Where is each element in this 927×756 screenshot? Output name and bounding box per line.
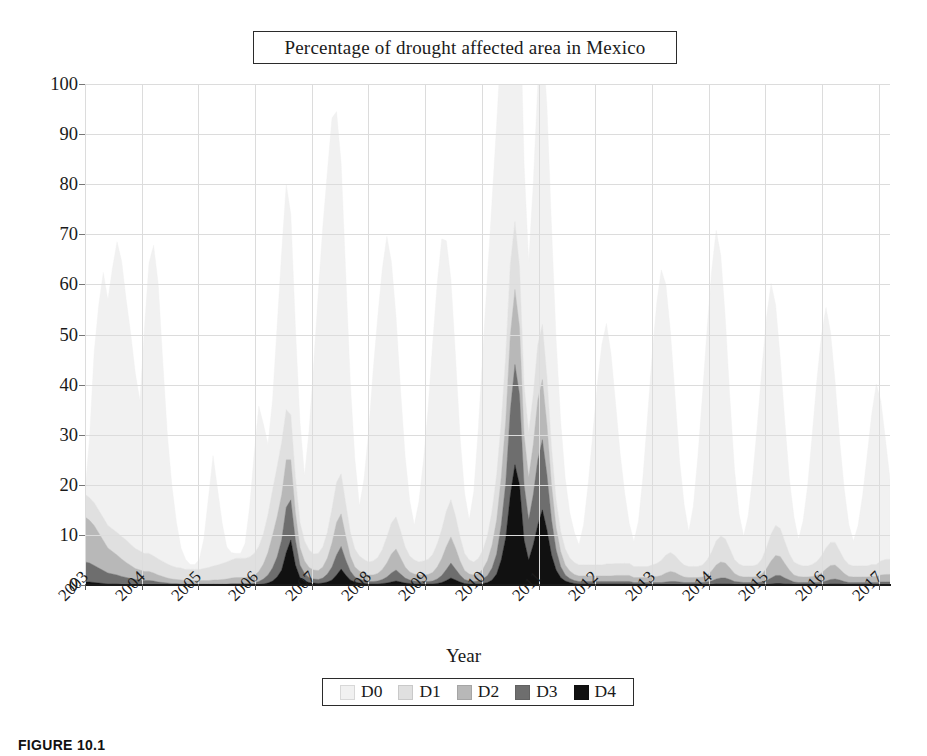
plot-area [85,84,890,585]
gridline-vertical [312,84,313,585]
y-axis-tick-label: 10 [32,526,78,545]
y-axis-tick-mark [79,84,85,85]
y-axis-tick-labels: 0102030405060708090100 [24,84,78,585]
legend-swatch-icon [398,685,413,700]
y-axis-tick-mark [79,485,85,486]
gridline-vertical [765,84,766,585]
gridline-vertical [482,84,483,585]
gridline-vertical [822,84,823,585]
gridline-vertical [368,84,369,585]
x-axis-title: Year [0,645,927,667]
gridline-horizontal [85,284,890,285]
y-axis-tick-label: 80 [32,175,78,194]
y-axis-tick-mark [79,435,85,436]
gridline-horizontal [85,485,890,486]
legend-item-d2[interactable]: D2 [449,683,507,701]
legend-item-d4[interactable]: D4 [566,683,624,701]
legend-swatch-icon [515,685,530,700]
y-axis-tick-label: 100 [32,75,78,94]
y-axis-tick-mark [79,535,85,536]
area-series-d0 [85,84,890,569]
gridline-vertical [425,84,426,585]
y-axis-tick-mark [79,234,85,235]
y-axis-tick-label: 60 [32,275,78,294]
legend-swatch-icon [340,685,355,700]
y-axis-tick-mark [79,284,85,285]
legend-swatch-icon [457,685,472,700]
gridline-horizontal [85,335,890,336]
y-axis-tick-label: 90 [32,125,78,144]
legend-item-d1[interactable]: D1 [390,683,448,701]
gridline-vertical [595,84,596,585]
legend-swatch-icon [574,685,589,700]
y-axis-tick-mark [79,335,85,336]
gridline-horizontal [85,84,890,85]
y-axis-tick-label: 20 [32,476,78,495]
gridline-horizontal [85,535,890,536]
y-axis-tick-label: 30 [32,426,78,445]
legend-label: D1 [419,683,440,701]
gridline-vertical [709,84,710,585]
chart-title: Percentage of drought affected area in M… [253,31,677,64]
gridline-vertical [539,84,540,585]
legend-item-d0[interactable]: D0 [332,683,390,701]
gridline-vertical [879,84,880,585]
y-axis-tick-mark [79,385,85,386]
gridline-vertical [198,84,199,585]
y-axis-tick-label: 70 [32,225,78,244]
y-axis-tick-label: 40 [32,376,78,395]
legend-label: D2 [478,683,499,701]
gridline-vertical [85,84,86,585]
gridline-horizontal [85,134,890,135]
legend-label: D4 [595,683,616,701]
y-axis-tick-label: 50 [32,326,78,345]
gridline-vertical [652,84,653,585]
gridline-horizontal [85,385,890,386]
gridline-vertical [255,84,256,585]
y-axis-tick-mark [79,184,85,185]
y-axis-tick-mark [79,134,85,135]
gridline-horizontal [85,184,890,185]
y-axis-tick-mark [79,585,85,586]
legend-label: D3 [536,683,557,701]
figure-caption: FIGURE 10.1 [18,737,105,753]
legend-item-d3[interactable]: D3 [507,683,565,701]
gridline-horizontal [85,234,890,235]
gridline-vertical [142,84,143,585]
figure-root: Percentage of drought affected area in M… [0,0,927,756]
chart-legend: D0D1D2D3D4 [322,678,634,706]
chart-title-text: Percentage of drought affected area in M… [284,37,645,59]
legend-label: D0 [361,683,382,701]
gridline-horizontal [85,435,890,436]
x-axis-line [85,584,891,586]
plot-area-wrapper [85,84,890,585]
